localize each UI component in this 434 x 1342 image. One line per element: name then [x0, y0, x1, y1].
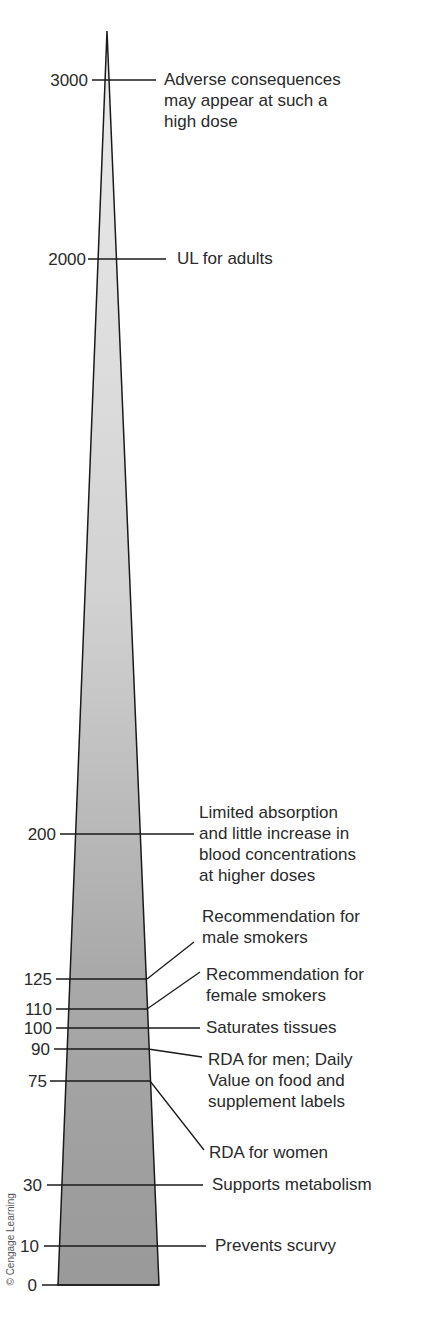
annotation-line: at higher doses	[199, 865, 356, 886]
annotation-line: Recommendation for	[206, 964, 364, 985]
annotation-125: Recommendation for male smokers	[202, 906, 360, 948]
annotation-10: Prevents scurvy	[215, 1235, 336, 1256]
annotation-line: Supports metabolism	[212, 1174, 372, 1195]
annotation-line: high dose	[164, 111, 341, 132]
annotation-line: Prevents scurvy	[215, 1235, 336, 1256]
annotation-100: Saturates tissues	[206, 1017, 336, 1038]
leader-line-125	[147, 942, 194, 979]
annotation-line: Limited absorption	[199, 802, 356, 823]
dose-spike	[58, 31, 159, 1285]
tick-label-125: 125	[0, 971, 52, 988]
annotation-line: male smokers	[202, 927, 360, 948]
copyright-notice: © Cengage Learning	[5, 1156, 16, 1286]
annotation-line: and little increase in	[199, 823, 356, 844]
annotation-2000: UL for adults	[177, 248, 273, 269]
annotation-line: may appear at such a	[164, 90, 341, 111]
annotation-line: RDA for men; Daily	[208, 1049, 353, 1070]
tick-label-110: 110	[0, 1001, 52, 1018]
annotation-line: Value on food and	[208, 1070, 353, 1091]
annotation-line: blood concentrations	[199, 844, 356, 865]
leader-line-90	[148, 1049, 202, 1057]
tick-label-3000: 3000	[28, 72, 88, 89]
annotation-90: RDA for men; Daily Value on food and sup…	[208, 1049, 353, 1112]
tick-label-100: 100	[0, 1020, 52, 1037]
annotation-line: UL for adults	[177, 248, 273, 269]
tick-label-200: 200	[0, 826, 56, 843]
tick-label-90: 90	[0, 1041, 50, 1058]
annotation-75: RDA for women	[209, 1142, 328, 1163]
leader-line-75	[150, 1081, 204, 1150]
tick-label-75: 75	[0, 1073, 47, 1090]
annotation-200: Limited absorption and little increase i…	[199, 802, 356, 886]
annotation-30: Supports metabolism	[212, 1174, 372, 1195]
annotation-line: Saturates tissues	[206, 1017, 336, 1038]
dose-spike-diagram	[0, 0, 434, 1342]
leader-line-110	[147, 972, 200, 1009]
annotation-line: supplement labels	[208, 1091, 353, 1112]
annotation-line: female smokers	[206, 985, 364, 1006]
tick-label-2000: 2000	[26, 251, 86, 268]
annotation-line: RDA for women	[209, 1142, 328, 1163]
annotation-line: Recommendation for	[202, 906, 360, 927]
annotation-line: Adverse consequences	[164, 69, 341, 90]
annotation-110: Recommendation for female smokers	[206, 964, 364, 1006]
annotation-3000: Adverse consequences may appear at such …	[164, 69, 341, 132]
